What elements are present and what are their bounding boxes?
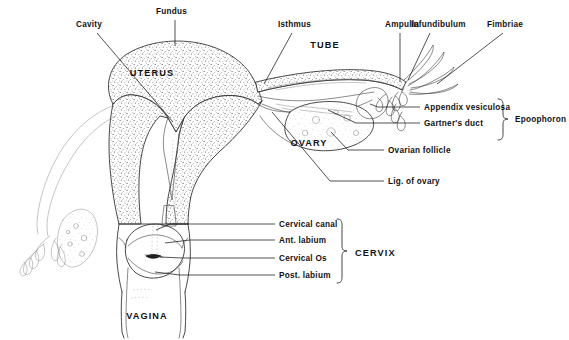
label-uterus: UTERUS [130, 68, 174, 78]
callout-ant-labium: Ant. labium [279, 236, 326, 245]
callout-cavity: Cavity [76, 20, 102, 29]
diagram-background [0, 0, 569, 340]
callout-gartners-duct: Gartner's duct [424, 119, 483, 128]
label-vagina: VAGINA [126, 311, 168, 321]
callout-isthmus: Isthmus [278, 20, 311, 29]
callout-ovarian-follicle: Ovarian follicle [388, 146, 451, 155]
figure-page: UTERUS TUBE OVARY CERVIX VAGINA Epoophor… [0, 0, 569, 340]
label-tube: TUBE [310, 40, 339, 50]
callout-appendix-vesiculosa: Appendix vesiculosa [424, 103, 510, 112]
callout-lig-of-ovary: Lig. of ovary [388, 177, 440, 186]
callout-fimbriae: Fimbriae [487, 20, 523, 29]
callout-post-labium: Post. labium [279, 271, 331, 280]
label-ovary: OVARY [290, 138, 327, 148]
label-cervix: CERVIX [355, 248, 396, 258]
label-epoophoron: Epoophoron [515, 115, 566, 124]
callout-infundibulum: Infundibulum [411, 20, 466, 29]
callout-fundus: Fundus [156, 7, 187, 16]
callout-cervical-os: Cervical Os [279, 254, 327, 263]
callout-cervical-canal: Cervical canal [279, 220, 338, 229]
anatomy-diagram: UTERUS TUBE OVARY CERVIX VAGINA Epoophor… [0, 0, 569, 340]
